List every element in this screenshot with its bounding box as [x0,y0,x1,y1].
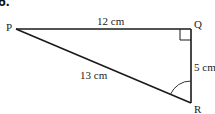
angle-arc-r [171,81,192,94]
triangle-diagram: 6. P Q R 12 cm 5 cm 13 cm [0,0,215,114]
question-number: 6. [0,0,10,9]
vertex-label-r: R [194,103,202,114]
vertex-label-q: Q [194,18,202,30]
side-label-pr: 13 cm [80,69,108,81]
side-label-qr: 5 cm [194,61,215,73]
right-angle-marker [180,29,191,40]
side-pr [16,29,191,103]
vertex-label-p: P [6,21,12,33]
side-label-pq: 12 cm [97,15,125,27]
